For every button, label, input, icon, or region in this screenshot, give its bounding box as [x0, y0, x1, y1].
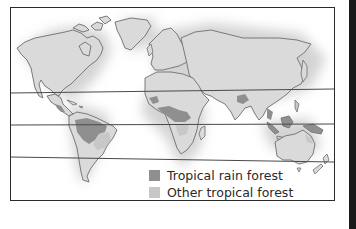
new-zealand	[313, 154, 329, 174]
page-edge-bar	[349, 0, 356, 229]
legend-label: Tropical rain forest	[167, 168, 283, 183]
map-legend: Tropical rain forest Other tropical fore…	[149, 167, 293, 201]
philippines	[295, 100, 299, 112]
legend-label: Other tropical forest	[167, 185, 293, 200]
map-frame: Tropical rain forest Other tropical fore…	[10, 7, 335, 201]
other-forest-swatch	[149, 187, 160, 198]
rain-forest-swatch	[149, 170, 160, 181]
legend-item-other-forest: Other tropical forest	[149, 184, 293, 201]
se-asia-rainforest	[267, 108, 273, 120]
tasmania	[297, 168, 301, 172]
legend-item-rain-forest: Tropical rain forest	[149, 167, 293, 184]
north-america	[17, 30, 103, 98]
